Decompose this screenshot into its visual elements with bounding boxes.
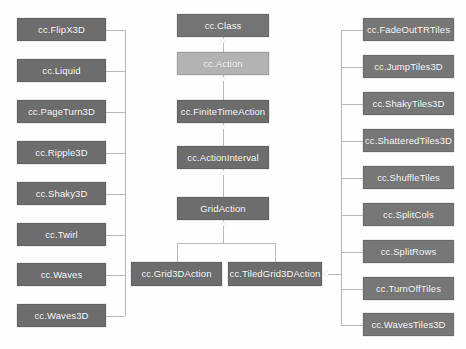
class-node-cc-jumptiles3d[interactable]: cc.JumpTiles3D [363,55,454,78]
class-node-cc-tiledgrid3daction[interactable]: cc.TiledGrid3DAction [228,262,322,286]
class-node-cc-waves[interactable]: cc.Waves [17,263,106,286]
class-node-cc-waves3d[interactable]: cc.Waves3D [17,304,106,327]
connector-line [106,194,125,195]
class-hierarchy-diagram: cc.Classcc.Actioncc.FiniteTimeActioncc.A… [0,0,466,349]
class-node-cc-splitrows[interactable]: cc.SplitRows [363,240,454,263]
connector-line [341,30,342,325]
connector-line [177,243,178,262]
connector-line [328,274,341,275]
connector-line [341,67,363,68]
class-node-cc-shuffletiles[interactable]: cc.ShuffleTiles [363,166,454,189]
connector-line [341,325,363,326]
connector-line [106,112,125,113]
connector-line [106,235,125,236]
class-node-cc-shatteredtiles3d[interactable]: cc.ShatteredTiles3D [363,129,454,152]
class-node-cc-wavestiles3d[interactable]: cc.WavesTiles3D [363,313,454,336]
connector-line [341,215,363,216]
connector-line [341,289,363,290]
class-node-cc-ripple3d[interactable]: cc.Ripple3D [17,141,106,164]
class-node-cc-action[interactable]: cc.Action [177,52,269,75]
inheritance-arrow-icon [220,76,226,81]
class-node-cc-flipx3d[interactable]: cc.FlipX3D [17,18,106,41]
connector-line [125,30,126,316]
connector-line [106,316,125,317]
class-node-cc-grid3daction[interactable]: cc.Grid3DAction [131,262,222,286]
connector-line [341,30,363,31]
class-node-cc-fadeouttrtiles[interactable]: cc.FadeOutTRTiles [363,18,454,41]
inheritance-arrow-icon [220,124,226,129]
connector-line [341,178,363,179]
connector-line [177,243,276,244]
connector-line [341,252,363,253]
connector-line [341,141,363,142]
connector-line [275,243,276,262]
class-node-cc-shakytiles3d[interactable]: cc.ShakyTiles3D [363,92,454,115]
class-node-cc-finitetimeaction[interactable]: cc.FiniteTimeAction [177,100,269,123]
connector-line [106,153,125,154]
class-node-cc-liquid[interactable]: cc.Liquid [17,59,106,82]
class-node-cc-class[interactable]: cc.Class [177,14,269,37]
class-node-cc-twirl[interactable]: cc.Twirl [17,223,106,246]
inheritance-arrow-icon [220,170,226,175]
inheritance-arrow-icon [220,221,226,226]
connector-line [341,104,363,105]
inheritance-arrow-icon [323,271,328,277]
connector-line [106,275,125,276]
class-node-cc-turnofftiles[interactable]: cc.TurnOffTiles [363,277,454,300]
class-node-cc-pageturn3d[interactable]: cc.PageTurn3D [17,100,106,123]
class-node-gridaction[interactable]: GridAction [177,197,269,220]
connector-line [106,30,125,31]
class-node-cc-splitcols[interactable]: cc.SplitCols [363,203,454,226]
class-node-cc-shaky3d[interactable]: cc.Shaky3D [17,182,106,205]
class-node-cc-actioninterval[interactable]: cc.ActionInterval [177,146,269,169]
connector-line [106,71,125,72]
inheritance-arrow-icon [220,38,226,43]
